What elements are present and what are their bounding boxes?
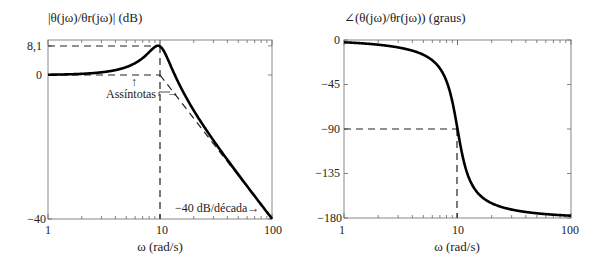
xtick-1: 1 (339, 223, 345, 237)
phase-plot: ∠(θ(jω)/θr(jω)) (graus) 0 −45 −90 −135 −… (315, 10, 579, 254)
ytick-0: 0 (36, 68, 42, 82)
xtick-100: 100 (561, 223, 579, 237)
slope-label: −40 dB/década→ (175, 201, 259, 215)
xtick-10: 10 (452, 223, 464, 237)
ytick-0: 0 (334, 33, 340, 47)
ytick-8-1: 8,1 (27, 39, 42, 53)
asymptotes-label: Assíntotas (106, 87, 156, 101)
magnitude-xlabel: ω (rad/s) (137, 239, 183, 254)
phase-xlabel: ω (rad/s) (434, 239, 480, 254)
phase-title: ∠(θ(jω)/θr(jω)) (graus) (344, 10, 466, 25)
xtick-10: 10 (156, 223, 168, 237)
magnitude-title: |θ(jω)/θr(jω)| (dB) (48, 10, 142, 25)
ytick-minus-90: −90 (321, 122, 340, 136)
xtick-100: 100 (264, 223, 282, 237)
bode-figure: |θ(jω)/θr(jω)| (dB) 8,1 0 −40 1 10 100 ω… (0, 0, 605, 266)
xtick-1: 1 (45, 223, 51, 237)
ytick-minus-135: −135 (315, 166, 340, 180)
ytick-minus-45: −45 (321, 77, 340, 91)
right-arrow-icon: → (167, 85, 179, 99)
ytick-minus-40: −40 (27, 212, 46, 226)
magnitude-plot: |θ(jω)/θr(jω)| (dB) 8,1 0 −40 1 10 100 ω… (27, 10, 282, 254)
